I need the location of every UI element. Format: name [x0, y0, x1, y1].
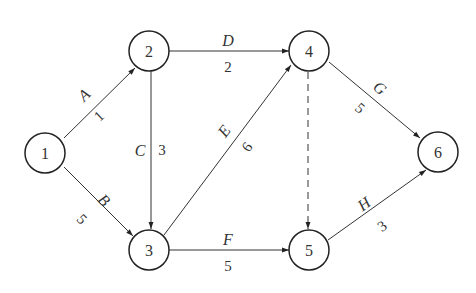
edge-E-weight: 6	[238, 139, 256, 155]
node-6: 6	[418, 132, 458, 172]
edge-F-name: F	[222, 231, 233, 248]
edge-C-name: C	[135, 142, 146, 159]
edge-H-weight: 3	[374, 217, 389, 234]
edge-E-name: E	[214, 122, 234, 141]
node-1-label: 1	[41, 145, 49, 162]
node-3: 3	[129, 230, 169, 270]
edge-G-arrow	[329, 62, 420, 138]
edge-E-arrow	[164, 65, 291, 235]
edge-D-name: D	[221, 32, 234, 49]
edge-H-arrow	[328, 170, 426, 240]
node-4: 4	[289, 31, 329, 71]
edge-A-weight: 1	[91, 108, 108, 125]
network-diagram: A 1 B 5 C 3 D 2 E 6 F 5 G 5 H 3 1 2 3	[0, 0, 476, 293]
edge-G-name: G	[370, 78, 390, 99]
node-2-label: 2	[145, 43, 153, 60]
edge-D-weight: 2	[224, 59, 232, 75]
edge-F-weight: 5	[224, 258, 232, 274]
edge-C-labels: C 3	[135, 142, 166, 159]
edge-H-labels: H 3	[354, 193, 390, 235]
edge-C-weight: 3	[158, 142, 166, 158]
edge-D-labels: D 2	[221, 32, 234, 76]
node-3-label: 3	[145, 242, 153, 259]
edge-E-labels: E 6	[214, 122, 256, 155]
node-4-label: 4	[305, 43, 313, 60]
edge-B-name: B	[95, 191, 114, 210]
node-5: 5	[289, 230, 329, 270]
edge-A-labels: A 1	[74, 85, 107, 124]
node-6-label: 6	[434, 144, 442, 161]
node-5-label: 5	[305, 242, 313, 259]
edge-G-weight: 5	[352, 99, 368, 116]
edge-A-name: A	[74, 85, 94, 105]
node-1: 1	[25, 133, 65, 173]
node-2: 2	[129, 31, 169, 71]
edge-B-weight: 5	[74, 211, 91, 228]
edge-F-labels: F 5	[222, 231, 233, 275]
edge-A-arrow	[64, 68, 135, 138]
edge-H-name: H	[354, 193, 375, 215]
